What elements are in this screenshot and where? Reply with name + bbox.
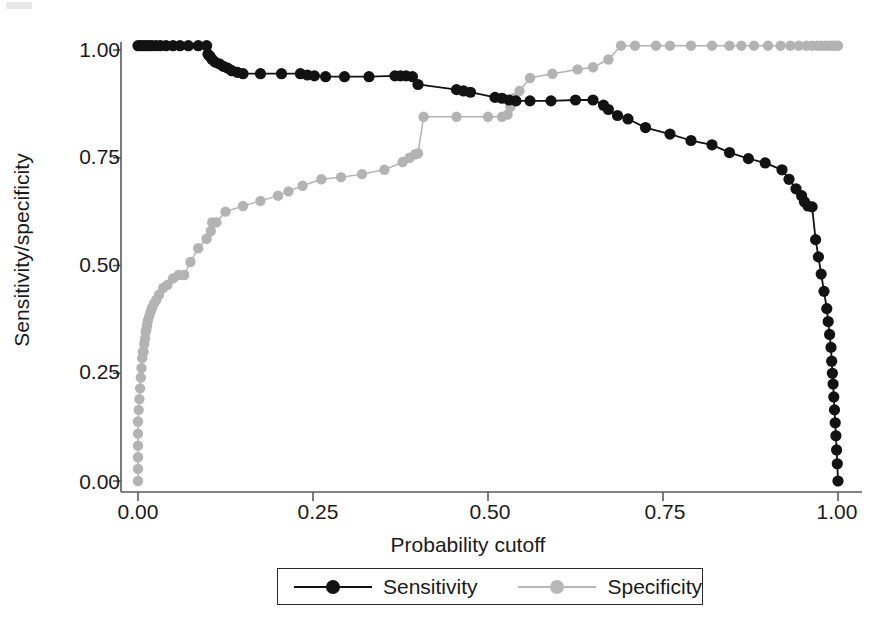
y-axis-title-text: Sensitivity/specificity: [10, 153, 34, 347]
y-tick-label: 1.00: [50, 38, 120, 62]
legend-key-sensitivity: [294, 578, 372, 596]
legend-dot-icon: [550, 580, 564, 594]
legend-key-specificity: [518, 578, 596, 596]
legend-label-sensitivity: Sensitivity: [383, 575, 478, 599]
x-tick-label: 0.75: [625, 500, 705, 524]
axis-lines: [113, 42, 862, 501]
x-tick-label: 0.25: [278, 500, 358, 524]
x-tick-label: 1.00: [797, 500, 877, 524]
legend-item-specificity[interactable]: Specificity: [502, 569, 702, 604]
y-axis-title: Sensitivity/specificity: [0, 0, 44, 500]
series-specificity: [133, 40, 843, 486]
y-tick-label: 0.50: [50, 253, 120, 277]
x-tick-label: 0.00: [98, 500, 178, 524]
x-axis-title: Probability cutoff: [0, 533, 880, 557]
legend-label-specificity: Specificity: [607, 575, 702, 599]
y-tick-labels: 1.00 0.75 0.50 0.25 0.00: [42, 0, 120, 500]
series-sensitivity: [132, 40, 843, 487]
legend-dot-icon: [326, 580, 340, 594]
y-tick-label: 0.00: [50, 470, 120, 494]
x-tick-label: 0.50: [450, 500, 530, 524]
roc-cutoff-figure: Sensitivity/specificity 1.00 0.75 0.50 0…: [0, 0, 880, 630]
legend-item-sensitivity[interactable]: Sensitivity: [278, 569, 478, 604]
legend: Sensitivity Specificity: [277, 568, 703, 605]
y-tick-label: 0.25: [50, 360, 120, 384]
x-axis-title-text: Probability cutoff: [391, 533, 546, 556]
y-tick-label: 0.75: [50, 145, 120, 169]
